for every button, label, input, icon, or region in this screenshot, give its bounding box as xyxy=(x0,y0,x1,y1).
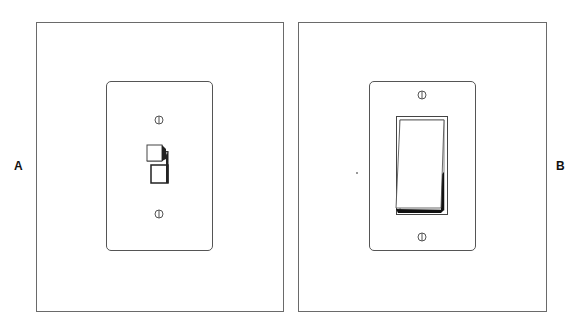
screw-icon xyxy=(154,115,164,125)
screw-icon xyxy=(417,90,427,100)
dot-marker xyxy=(356,172,358,174)
rocker-switch-icon[interactable] xyxy=(396,116,450,216)
toggle-switch-icon[interactable] xyxy=(145,143,175,185)
panel-label-a: A xyxy=(14,159,23,173)
screw-icon xyxy=(417,232,427,242)
panel-label-b: B xyxy=(556,159,565,173)
screw-icon xyxy=(154,209,164,219)
